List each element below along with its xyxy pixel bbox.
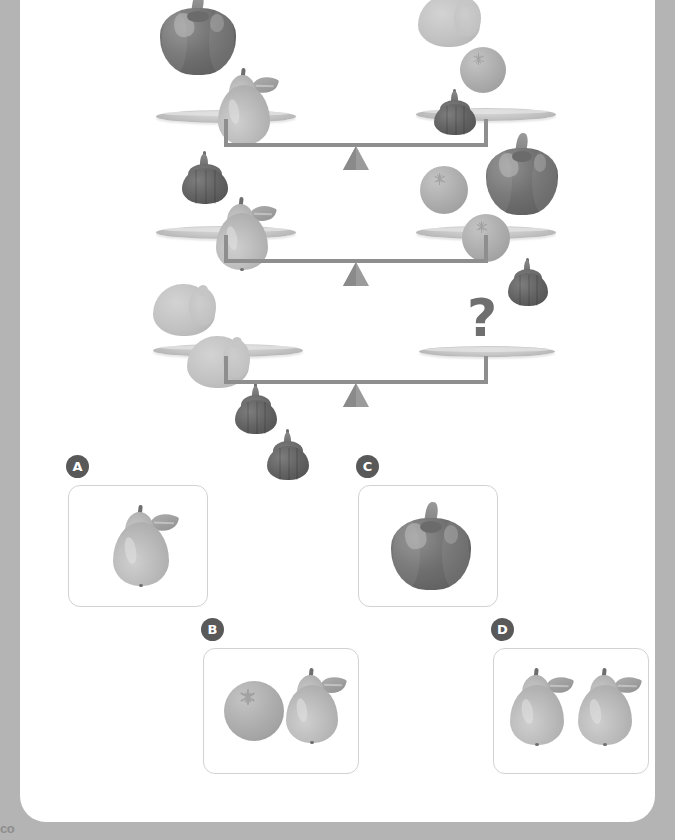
pear-body: [113, 522, 169, 586]
pear-body: [510, 685, 564, 745]
produce-orange: [460, 47, 506, 93]
onion-stripe: [214, 170, 216, 204]
option-b[interactable]: B: [183, 618, 373, 778]
produce-pepper: [391, 504, 471, 590]
pear-base: [535, 743, 539, 747]
onion-stripe: [296, 448, 298, 480]
orange-stem-star: [432, 173, 447, 185]
onion-stripe: [247, 402, 249, 434]
option-b-badge: B: [201, 618, 224, 641]
onion-stripe: [463, 106, 465, 135]
produce-onion: [235, 388, 277, 434]
pepper-highlight: [210, 14, 224, 32]
pepper-highlight: [444, 525, 458, 544]
onion-stripe: [446, 106, 448, 135]
pear-side-stem: [198, 285, 208, 296]
items-row2-left: [156, 160, 296, 232]
onion-stripe: [288, 448, 290, 480]
pear-side-stem: [232, 337, 242, 348]
pear-base: [240, 268, 244, 271]
orange-stem-star: [471, 53, 486, 65]
produce-onion: [182, 156, 228, 204]
option-d-badge: D: [491, 618, 514, 641]
pear-body: [286, 685, 338, 743]
question-mark: ?: [467, 292, 497, 344]
pepper-stem-base: [187, 11, 208, 22]
produce-pear: [113, 512, 169, 586]
fulcrum-1: [343, 146, 369, 170]
produce-onion: [434, 93, 476, 135]
pear-base: [139, 584, 143, 588]
pear-body: [578, 685, 632, 745]
onion-stripe: [519, 275, 521, 306]
onion-stripe: [256, 402, 258, 434]
produce-pear-side: [153, 284, 215, 336]
option-a-card[interactable]: [68, 485, 208, 607]
produce-orange: [224, 681, 284, 741]
option-b-card[interactable]: [203, 648, 359, 774]
onion-stripe: [205, 170, 207, 204]
pear-base: [310, 741, 314, 744]
onion-stripe: [264, 402, 266, 434]
items-row1-right: [416, 0, 556, 114]
produce-onion: [508, 262, 548, 306]
option-d[interactable]: D: [473, 618, 663, 778]
onion-stripe: [528, 275, 530, 306]
items-row3-left: [153, 288, 303, 350]
produce-pepper: [160, 0, 236, 75]
produce-pear: [578, 675, 632, 745]
onion-stripe: [536, 275, 538, 306]
option-c-badge: C: [356, 455, 379, 478]
option-c-card[interactable]: [358, 485, 498, 607]
items-row1-left: [156, 0, 296, 116]
orange-stem-star: [238, 689, 257, 705]
produce-orange: [420, 166, 468, 214]
option-d-card[interactable]: [493, 648, 649, 774]
items-row2-right: [416, 170, 556, 232]
footer-watermark: co: [0, 822, 60, 840]
produce-pear: [286, 675, 338, 743]
option-c[interactable]: C: [338, 455, 518, 610]
fulcrum-2: [343, 262, 369, 286]
produce-onion: [267, 434, 309, 480]
pear-base: [603, 743, 607, 747]
option-a-badge: A: [66, 455, 89, 478]
onion-stripe: [455, 106, 457, 135]
orange-stem-star: [474, 221, 489, 233]
onion-stripe: [195, 170, 197, 204]
puzzle-page: ? A C: [20, 0, 655, 822]
option-a[interactable]: A: [48, 455, 228, 610]
produce-pear: [510, 675, 564, 745]
produce-melon: [418, 0, 480, 47]
onion-stripe: [279, 448, 281, 480]
fulcrum-3: [343, 383, 369, 407]
